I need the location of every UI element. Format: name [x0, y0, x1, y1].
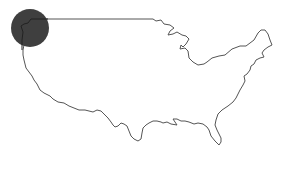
us-outline-map: [0, 0, 290, 172]
us-map: [0, 0, 290, 172]
us-border-outline: [23, 19, 272, 145]
highlight-circle-marker: [11, 9, 49, 47]
